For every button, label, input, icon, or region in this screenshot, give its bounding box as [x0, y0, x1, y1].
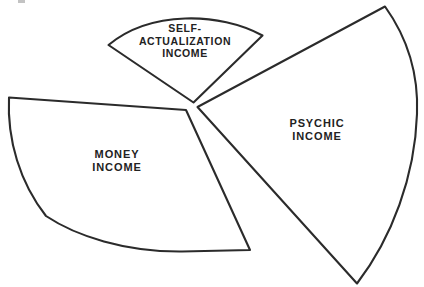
slice-label-self-actualization-income: SELF- ACTUALIZATION INCOME [118, 22, 252, 60]
slice-label-psychic-income: PSYCHIC INCOME [262, 117, 372, 143]
slice-label-money-income: MONEY INCOME [62, 148, 172, 174]
diagram-canvas: SELF- ACTUALIZATION INCOME PSYCHIC INCOM… [0, 0, 424, 287]
